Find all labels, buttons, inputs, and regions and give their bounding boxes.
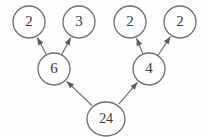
arrowhead-icon	[164, 37, 171, 45]
edge-n6-to-n3	[62, 37, 71, 54]
edge-n24-to-n4	[119, 82, 138, 104]
node-n2a[interactable]: 2	[13, 6, 45, 38]
arrowhead-icon	[65, 37, 71, 45]
node-label: 2	[176, 13, 184, 29]
factor-tree-diagram: 23226424	[0, 0, 209, 137]
node-n6[interactable]: 6	[38, 53, 70, 85]
edge-n4-to-n2c	[158, 37, 170, 56]
node-label: 2	[126, 13, 134, 29]
edge-n4-to-n2b	[137, 38, 143, 53]
node-label: 24	[99, 111, 113, 126]
node-n2c[interactable]: 2	[164, 6, 196, 38]
node-label: 3	[75, 13, 83, 29]
node-label: 4	[145, 60, 153, 76]
diagram-canvas: 23226424	[0, 0, 209, 137]
arrowhead-icon	[137, 38, 143, 46]
arrowhead-icon	[37, 37, 43, 45]
edge-n24-to-n6	[67, 81, 92, 105]
edge-n6-to-n2a	[37, 37, 46, 54]
node-n2b[interactable]: 2	[114, 6, 146, 38]
node-n4[interactable]: 4	[133, 53, 165, 85]
node-label: 6	[50, 60, 58, 76]
node-n3[interactable]: 3	[63, 6, 95, 38]
node-n24[interactable]: 24	[87, 102, 125, 136]
node-label: 2	[25, 13, 33, 29]
nodes-layer: 23226424	[13, 6, 196, 136]
